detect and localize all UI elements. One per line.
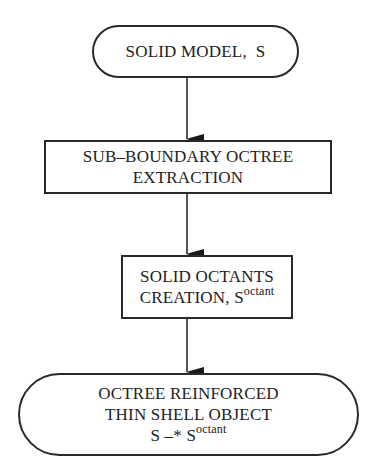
- node-solid-model-label: SOLID MODEL, S: [126, 41, 266, 62]
- node-solid-model: SOLID MODEL, S: [92, 25, 299, 78]
- node-line-with-superscript: CREATION, Soctant: [140, 287, 275, 308]
- node-octree-reinforced-thin-shell: OCTREE REINFORCED THIN SHELL OBJECT S –*…: [18, 373, 359, 456]
- node-line: THIN SHELL OBJECT: [105, 404, 272, 425]
- superscript: octant: [244, 284, 275, 298]
- node-solid-octants-creation: SOLID OCTANTS CREATION, Soctant: [121, 255, 293, 319]
- superscript: octant: [196, 422, 227, 436]
- node-line-with-superscript: S –* Soctant: [150, 425, 226, 446]
- node-line: SUB–BOUNDARY OCTREE: [83, 146, 294, 167]
- node-sub-boundary-octree-extraction: SUB–BOUNDARY OCTREE EXTRACTION: [44, 140, 332, 194]
- node-line: EXTRACTION: [133, 167, 244, 188]
- node-line: OCTREE REINFORCED: [98, 383, 279, 404]
